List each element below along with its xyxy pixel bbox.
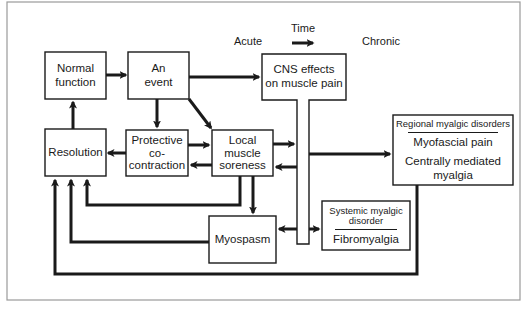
local-line2: muscle [224,147,260,160]
normal-function-line2: function [55,76,95,90]
systemic-myalgic-text: Systemic myalgic disorder Fibromyalgia [322,201,410,250]
local-line3: soreness [219,159,266,172]
edge-local-to-resolution [87,176,240,205]
an-event-line1: An [151,62,165,76]
regional-item2: Centrally mediated myalgia [393,155,513,183]
regional-myalgic-text: Regional myalgic disorders Myofascial pa… [393,115,513,185]
systemic-header-line2: disorder [349,216,383,226]
regional-item1: Myofascial pain [413,136,492,150]
protective-line2: co- [149,147,165,160]
local-muscle-soreness-text: Local muscle soreness [212,130,273,176]
normal-function-line1: Normal [57,62,94,76]
protective-line3: contraction [129,159,185,172]
resolution-text: Resolution [45,129,106,176]
local-line1: Local [229,134,257,147]
chronic-label: Chronic [356,35,406,48]
systemic-divider [335,229,397,230]
cns-effects-line1: CNS effects [273,63,334,77]
regional-divider [408,132,498,133]
an-event-line2: event [144,76,172,90]
systemic-item1: Fibromyalgia [333,233,399,245]
myospasm-line1: Myospasm [215,233,271,247]
edge-myospasm-to-resolution [71,180,209,242]
protective-cocontraction-text: Protective co- contraction [126,130,188,176]
an-event-text: An event [128,52,189,99]
resolution-line1: Resolution [48,146,102,160]
regional-header: Regional myalgic disorders [396,118,510,129]
cns-effects-line2: on muscle pain [265,77,342,91]
protective-line1: Protective [131,134,182,147]
edge-event-to-local [189,99,211,128]
normal-function-text: Normal function [45,52,106,99]
cns-effects-text: CNS effects on muscle pain [262,54,346,100]
acute-label: Acute [228,35,268,48]
time-label: Time [288,22,318,35]
myospasm-text: Myospasm [209,216,276,263]
